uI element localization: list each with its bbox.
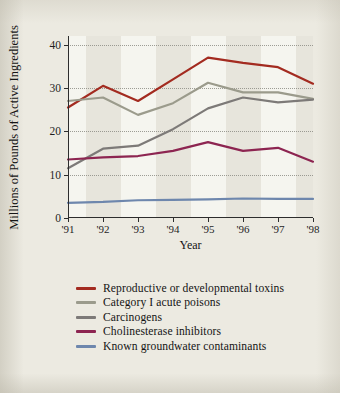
legend-label: Cholinesterase inhibitors	[103, 325, 221, 338]
x-axis-tick-label: '98	[307, 223, 320, 235]
x-axis-tick-label: '96	[237, 223, 250, 235]
legend-label: Known groundwater contaminants	[103, 340, 266, 353]
x-axis-tick	[138, 218, 139, 222]
legend-label: Carcinogens	[103, 311, 162, 324]
x-axis-tick	[243, 218, 244, 222]
x-axis-tick-label: '91	[62, 223, 75, 235]
legend-label: Reproductive or developmental toxins	[103, 282, 284, 295]
x-axis-line	[68, 217, 313, 218]
x-axis-tick	[68, 218, 69, 222]
x-axis-tick-label: '92	[97, 223, 110, 235]
series-line	[68, 58, 313, 108]
x-axis-tick	[313, 218, 314, 222]
y-axis-title-text: Millions of Pounds of Active Ingredients	[7, 25, 22, 230]
x-axis-tick	[208, 218, 209, 222]
y-axis-line	[68, 36, 69, 218]
x-axis-tick	[173, 218, 174, 222]
x-axis-tick-label: '97	[272, 223, 285, 235]
legend-swatch-icon	[76, 301, 96, 304]
legend-item: Category I acute poisons	[76, 296, 326, 311]
x-axis-title: Year	[68, 238, 313, 253]
y-axis-tick-label: 30	[50, 82, 62, 94]
x-axis-tick	[103, 218, 104, 222]
series-line	[68, 142, 313, 162]
y-axis-tick-label: 0	[55, 212, 61, 224]
x-axis-tick-label: '93	[132, 223, 145, 235]
legend: Reproductive or developmental toxinsCate…	[76, 281, 326, 354]
x-axis-tick-label: '94	[167, 223, 180, 235]
x-axis-tick-label: '95	[202, 223, 215, 235]
legend-swatch-icon	[76, 345, 96, 348]
y-axis-title: Millions of Pounds of Active Ingredients	[6, 36, 22, 218]
legend-swatch-icon	[76, 330, 96, 333]
y-axis-tick-label: 10	[50, 169, 62, 181]
legend-label: Category I acute poisons	[103, 296, 220, 309]
plot-frame: 010203040 '91'92'93'94'95'96'97'98	[68, 36, 313, 218]
series-lines	[68, 36, 313, 218]
legend-item: Carcinogens	[76, 310, 326, 325]
legend-item: Cholinesterase inhibitors	[76, 325, 326, 340]
y-axis-tick-label: 40	[50, 39, 62, 51]
legend-swatch-icon	[76, 287, 96, 290]
y-axis-tick-label: 20	[50, 125, 62, 137]
legend-swatch-icon	[76, 316, 96, 319]
series-line	[68, 199, 313, 203]
x-axis-tick	[278, 218, 279, 222]
chart-area: Millions of Pounds of Active Ingredients…	[0, 0, 340, 270]
legend-item: Reproductive or developmental toxins	[76, 281, 326, 296]
legend-item: Known groundwater contaminants	[76, 339, 326, 354]
chart-figure: Millions of Pounds of Active Ingredients…	[0, 0, 340, 393]
